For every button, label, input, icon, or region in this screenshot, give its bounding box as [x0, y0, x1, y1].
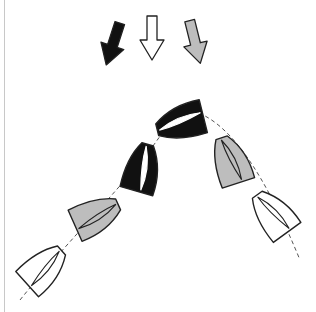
- wind-arrow-black-icon: [95, 19, 131, 68]
- boat-3-icon: [120, 140, 166, 196]
- wind-arrow-white-icon: [140, 16, 164, 60]
- boats: [16, 100, 301, 297]
- wind-arrow-gray-icon: [178, 18, 212, 66]
- boat-4-icon: [153, 100, 208, 145]
- boat-5-icon: [207, 132, 255, 188]
- boat-6-icon: [245, 184, 301, 243]
- boat-1-icon: [16, 239, 75, 297]
- sailing-diagram: [0, 0, 316, 312]
- wind-arrows: [95, 16, 212, 69]
